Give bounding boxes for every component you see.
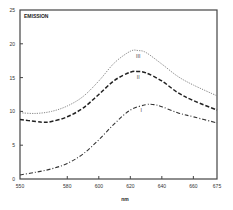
y-tick-label: 15 [9,75,15,81]
x-tick-label: 580 [63,183,72,189]
curve-label-ii: II [137,74,140,80]
x-tick-label: 550 [16,183,25,189]
axis-ticks: 5505806006206406606750510152025 [9,7,221,189]
curves [20,50,217,175]
x-tick-label: 600 [95,183,104,189]
x-tick-label: 660 [189,183,198,189]
curve-label-iii: III [136,53,140,59]
y-tick-label: 0 [12,176,15,182]
curve-label-i: I [140,107,141,113]
y-axis-title: EMISSION [24,13,49,19]
series-line-i [20,104,217,175]
y-tick-label: 5 [12,142,15,148]
emission-chart: EMISSION nm 5505806006206406606750510152… [0,0,233,210]
series-line-iii [20,50,217,113]
y-tick-label: 20 [9,41,15,47]
y-tick-label: 10 [9,108,15,114]
plot-frame [20,10,217,179]
series-line-ii [20,71,217,122]
x-tick-label: 675 [213,183,222,189]
x-axis-title: nm [121,196,129,202]
y-tick-label: 25 [9,7,15,13]
x-tick-label: 620 [126,183,135,189]
x-tick-label: 640 [158,183,167,189]
curve-labels: IIIIII [136,53,142,113]
